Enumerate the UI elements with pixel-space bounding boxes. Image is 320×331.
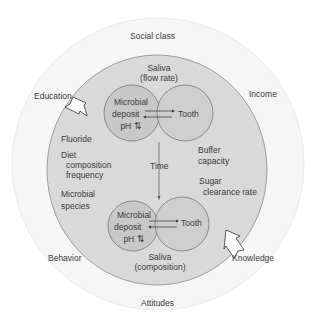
saliva-top-line2: (flow rate) [136,73,182,83]
saliva-bottom-line1: Saliva [130,252,190,262]
label-saliva-composition: Saliva (composition) [130,252,190,272]
venn-top-microbial-label: Microbial deposit pH ⇅ [107,97,155,131]
label-income: Income [249,89,277,99]
label-frequency: frequency [66,170,103,180]
venn-bottom-tooth-label: Tooth [181,218,202,228]
venn-bottom-deposit: deposit [110,222,158,232]
label-species: species [61,201,90,211]
label-fluoride: Fluoride [61,134,92,144]
venn-bottom-microbial-label: Microbial deposit pH ⇅ [110,210,158,244]
label-time: Time [150,161,169,171]
venn-bottom-ph: pH ⇅ [110,234,158,244]
label-composition: composition [66,160,111,170]
label-buffer: Buffer [198,145,221,155]
label-behavior: Behavior [48,253,82,263]
label-diet: Diet [61,150,76,160]
venn-bottom-microbial-line1: Microbial [110,210,158,220]
label-education: Education [34,91,72,101]
label-clearance-rate: clearance rate [203,187,257,197]
saliva-bottom-line2: (composition) [130,262,190,272]
venn-top-tooth-label: Tooth [178,109,199,119]
label-knowledge: Knowledge [232,253,274,263]
label-capacity: capacity [198,156,229,166]
venn-top-ph: pH ⇅ [107,121,155,131]
label-attitudes: Attitudes [141,298,174,308]
venn-top-deposit: deposit [107,109,155,119]
label-microbial: Microbial [61,189,95,199]
saliva-top-line1: Saliva [136,63,182,73]
label-sugar: Sugar [199,176,222,186]
venn-top-microbial-line1: Microbial [107,97,155,107]
label-social-class: Social class [130,31,175,41]
label-saliva-flow: Saliva (flow rate) [136,63,182,83]
